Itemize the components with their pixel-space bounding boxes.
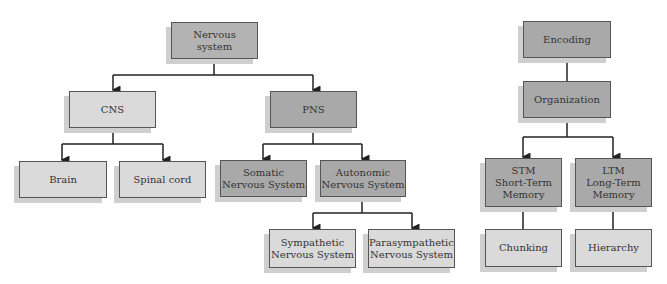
- node-encoding: Encoding: [523, 21, 611, 58]
- node-pns: PNS: [270, 91, 357, 128]
- node-hierarchy: Hierarchy: [575, 229, 652, 267]
- node-sympathetic: Sympathetic Nervous System: [269, 229, 356, 268]
- node-brain: Brain: [19, 161, 107, 198]
- node-nervous-system: Nervous system: [171, 22, 258, 59]
- node-ltm: LTM Long-Term Memory: [575, 158, 652, 207]
- node-autonomic: Autonomic Nervous System: [320, 160, 406, 197]
- node-parasympathetic: Parasympathetic Nervous System: [368, 229, 455, 268]
- node-cns: CNS: [69, 91, 156, 128]
- node-stm: STM Short-Term Memory: [485, 158, 562, 207]
- node-spinal-cord: Spinal cord: [119, 161, 206, 198]
- node-chunking: Chunking: [485, 229, 562, 267]
- node-somatic: Somatic Nervous System: [220, 160, 307, 197]
- node-organization: Organization: [523, 81, 611, 118]
